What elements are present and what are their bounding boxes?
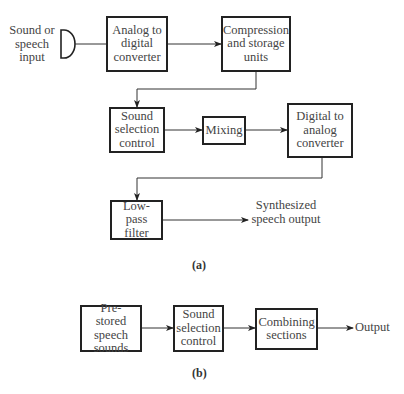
lowpass-block: Low-pass filter (110, 200, 163, 240)
sound-selection-block-b: Sound selection control (173, 305, 224, 352)
dac-block: Digital to analog converter (287, 103, 353, 158)
compression-block: Compression and storage units (221, 16, 291, 72)
adc-block: Analog to digital converter (106, 16, 168, 72)
microphone-icon (61, 30, 75, 58)
input-label: Sound or speech input (4, 24, 60, 65)
prestored-block: Pre-stored speech sounds (80, 305, 142, 352)
caption-a: (a) (192, 258, 206, 273)
mixing-block: Mixing (202, 116, 246, 145)
combining-block: Combining sections (255, 308, 318, 350)
output-label-b: Output (355, 321, 390, 335)
caption-b: (b) (192, 366, 207, 381)
output-label: Synthesized speech output (250, 199, 322, 226)
sound-selection-block: Sound selection control (109, 107, 165, 153)
